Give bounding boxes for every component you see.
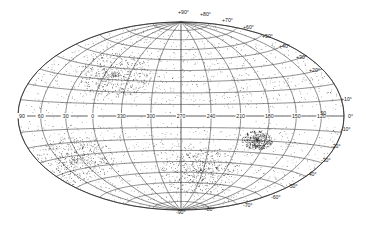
longitude-label: 60: [38, 113, 44, 119]
latitude-label: +50°: [262, 33, 273, 39]
latitude-label: +60°: [243, 24, 254, 30]
sky-map: 9060300330300270240210180150120900°+90°+…: [0, 0, 366, 227]
latitude-label: +30°: [296, 54, 307, 60]
latitude-label: -20°: [331, 143, 341, 149]
latitude-label: -50°: [288, 183, 298, 189]
longitude-label: 150: [292, 113, 301, 119]
latitude-label: -10°: [341, 126, 351, 132]
latitude-label: +80°: [200, 11, 211, 17]
latitude-label: -70°: [243, 202, 253, 208]
latitude-label: +20°: [309, 67, 320, 73]
longitude-label: 30: [63, 113, 69, 119]
longitude-label: 0: [91, 113, 94, 119]
latitude-label: -40°: [307, 171, 317, 177]
longitude-label: 90: [19, 113, 25, 119]
longitude-label: 240: [207, 113, 216, 119]
latitude-label: -80°: [205, 206, 215, 212]
equator-label: 0°: [348, 113, 353, 119]
longitude-label: 270: [177, 113, 186, 119]
latitude-label: -60°: [271, 194, 281, 200]
latitude-label: -30°: [321, 157, 331, 163]
longitude-label: 330: [117, 113, 126, 119]
latitude-label: +40°: [279, 43, 290, 49]
longitude-label: 300: [147, 113, 156, 119]
latitude-label: +70°: [222, 17, 233, 23]
latitude-label: +90°: [178, 9, 189, 15]
latitude-label: +10°: [341, 96, 352, 102]
latitude-label: -90°: [176, 209, 186, 215]
longitude-label: 90: [320, 110, 326, 116]
longitude-label: 210: [236, 113, 245, 119]
longitude-label: 180: [265, 113, 274, 119]
